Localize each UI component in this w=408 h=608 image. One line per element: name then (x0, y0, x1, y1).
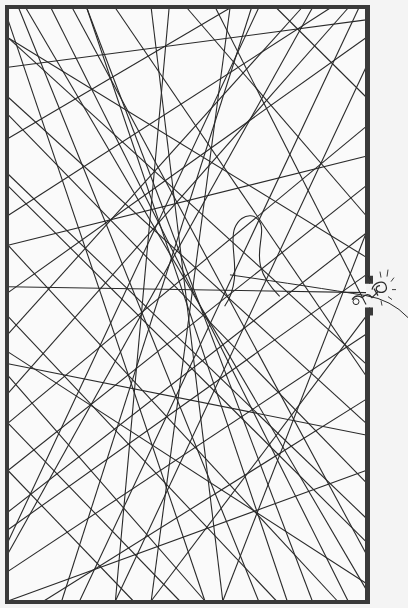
motion-mark (387, 270, 388, 277)
frame-bottom (5, 600, 369, 604)
motion-mark (388, 297, 392, 300)
illustration (0, 0, 408, 608)
motion-mark (391, 278, 394, 282)
illustration-canvas (0, 0, 408, 608)
frame-left (5, 5, 9, 604)
gap-jamb-bottom (369, 307, 373, 315)
figure-head (372, 282, 386, 292)
motion-mark (381, 301, 382, 306)
frame-right-upper (365, 5, 370, 284)
frame-right-lower (365, 307, 370, 604)
frame-top (5, 5, 369, 9)
motion-mark (380, 272, 381, 278)
